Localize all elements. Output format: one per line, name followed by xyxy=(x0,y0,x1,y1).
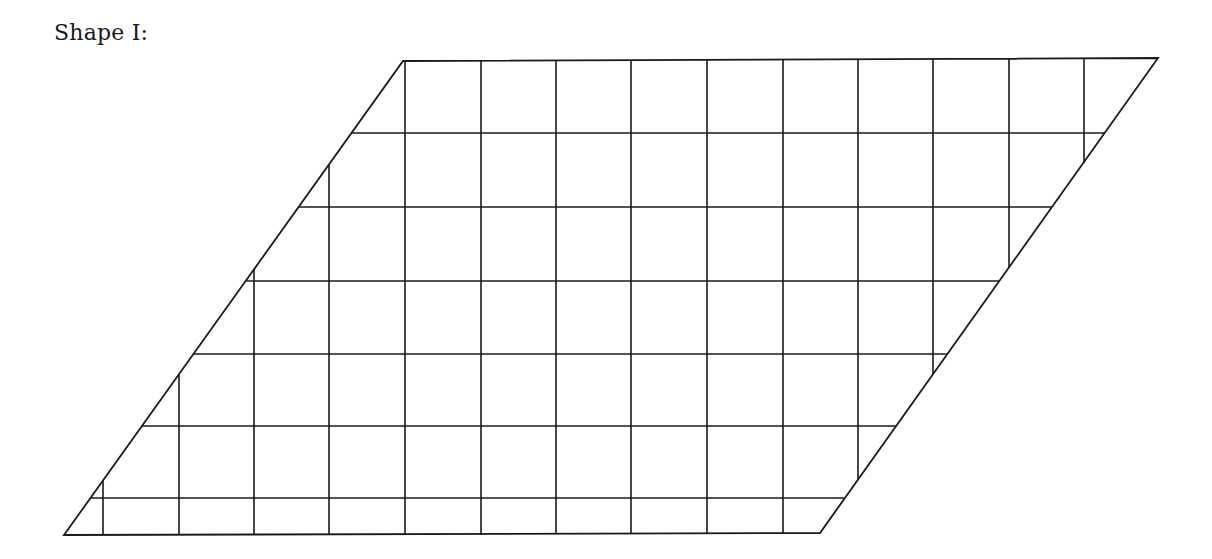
parallelogram-outline xyxy=(64,58,1158,535)
parallelogram-grid-diagram xyxy=(0,0,1212,559)
grid-lines xyxy=(90,58,1105,535)
